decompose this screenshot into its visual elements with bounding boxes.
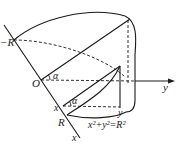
label-alpha-top: α — [53, 70, 59, 81]
label-equation: x²+y²=R² — [87, 119, 126, 130]
label-origin: O — [32, 77, 40, 89]
label-x-axis: x — [71, 132, 77, 143]
x-axis-line — [4, 25, 80, 138]
alpha-arc-bottom — [70, 102, 72, 107]
label-neg-r: −R — [0, 36, 14, 48]
label-r-point: R — [57, 116, 65, 128]
label-x-point: x — [53, 102, 59, 113]
inner-curve — [67, 66, 120, 115]
hidden-curve — [14, 40, 124, 76]
right-edge-curve — [125, 16, 136, 112]
label-alpha-bottom: α — [72, 95, 78, 106]
top-surface-curve — [14, 12, 125, 40]
alpha-arc-top — [49, 75, 51, 80]
label-y-axis: y — [162, 81, 168, 93]
wedge-diagram: −R O α α x R x y y x²+y²=R² — [0, 0, 180, 149]
triangle-base-hidden — [63, 106, 120, 107]
label-y-point: y — [117, 107, 123, 118]
y-axis-arrow-icon — [168, 79, 175, 84]
